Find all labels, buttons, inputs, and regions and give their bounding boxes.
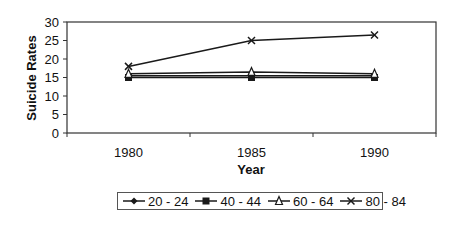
square-marker-icon — [203, 198, 210, 205]
legend-swatch-icon — [267, 195, 291, 207]
y-tick-label: 30 — [45, 15, 59, 30]
legend-swatch-icon — [194, 195, 218, 207]
legend-item: 80 - 84 — [339, 194, 405, 209]
line-chart: 051015202530198019851990 Suicide Rates Y… — [0, 0, 459, 190]
legend-swatch-icon — [122, 195, 146, 207]
legend-label: 20 - 24 — [148, 194, 188, 209]
y-tick-label: 5 — [52, 107, 59, 122]
legend-item: 20 - 24 — [122, 194, 188, 209]
legend-label: 80 - 84 — [365, 194, 405, 209]
x-tick-label: 1990 — [360, 145, 389, 160]
plot-area: 051015202530198019851990 — [45, 15, 436, 161]
legend-item: 40 - 44 — [194, 194, 260, 209]
legend-label: 40 - 44 — [220, 194, 260, 209]
y-tick-label: 20 — [45, 52, 59, 67]
legend-item: 60 - 64 — [267, 194, 333, 209]
y-tick-label: 10 — [45, 89, 59, 104]
y-tick-label: 0 — [52, 126, 59, 141]
y-axis-title: Suicide Rates — [24, 35, 39, 120]
diamond-marker-icon — [131, 198, 138, 205]
y-tick-label: 25 — [45, 33, 59, 48]
series-80-84 — [125, 31, 378, 69]
legend-label: 60 - 64 — [293, 194, 333, 209]
chart-legend: 20 - 2440 - 4460 - 6480 - 84 — [117, 192, 383, 210]
x-axis-title: Year — [237, 162, 264, 177]
y-tick-label: 15 — [45, 70, 59, 85]
x-tick-label: 1980 — [114, 145, 143, 160]
x-tick-label: 1985 — [237, 145, 266, 160]
legend-swatch-icon — [339, 195, 363, 207]
